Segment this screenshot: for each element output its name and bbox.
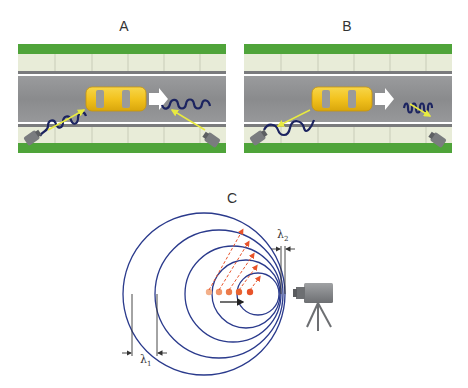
grass-top: [18, 44, 226, 54]
car: [312, 87, 372, 111]
lambda2-label: λ2: [277, 228, 288, 243]
wavefronts: [123, 213, 285, 375]
sidewalk-bottom: [244, 127, 452, 143]
grass-bottom: [18, 143, 226, 153]
figure-canvas: λ1 λ2: [0, 0, 468, 388]
panel-b: [244, 44, 452, 153]
panel-c: λ1 λ2: [122, 213, 333, 375]
panel-a: [18, 44, 226, 153]
sidewalk-top: [18, 54, 226, 71]
camera-icon: [293, 283, 333, 331]
lambda1-label: λ1: [140, 353, 151, 368]
grass-bottom: [244, 143, 452, 153]
car: [86, 87, 146, 111]
grass-top: [244, 44, 452, 54]
sidewalk-top: [244, 54, 452, 71]
